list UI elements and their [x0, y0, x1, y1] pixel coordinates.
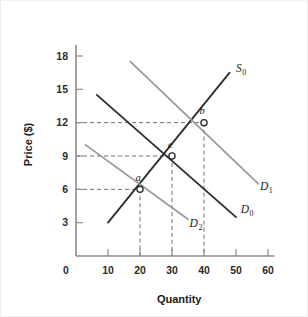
curve-label-d0: D0	[240, 203, 254, 218]
curve-label-d1: D1	[259, 180, 273, 195]
data-point-a	[137, 186, 143, 192]
curve-label-s0: S0	[236, 62, 246, 77]
y-tick-label: 9	[62, 150, 68, 162]
data-point-e	[169, 153, 175, 159]
x-tick-label: 20	[134, 264, 146, 276]
supply-demand-figure: 3691215180102030405060QuantityPrice ($) …	[0, 0, 308, 317]
y-axis-title: Price ($)	[22, 122, 34, 166]
data-point-label-b: b	[200, 105, 205, 116]
curve-d0	[97, 95, 236, 217]
x-axis-title: Quantity	[157, 293, 202, 305]
x-tick-label: 50	[230, 264, 242, 276]
data-point-label-a: a	[136, 172, 141, 183]
curve-label-d2: D2	[189, 217, 203, 232]
x-tick-label: 60	[262, 264, 274, 276]
x-tick-label: 30	[166, 264, 178, 276]
y-tick-label: 15	[56, 83, 68, 95]
y-tick-label: 18	[56, 50, 68, 62]
x-tick-label: 0	[63, 264, 69, 276]
y-tick-label: 6	[62, 183, 68, 195]
y-tick-label: 3	[62, 216, 68, 228]
x-tick-label: 40	[198, 264, 210, 276]
data-point-label-e: e	[168, 139, 173, 150]
y-tick-label: 12	[56, 116, 68, 128]
axes-layer: 3691215180102030405060QuantityPrice ($)	[22, 45, 274, 305]
chart-canvas: 3691215180102030405060QuantityPrice ($) …	[0, 0, 308, 317]
data-point-b	[201, 120, 207, 126]
x-tick-label: 10	[102, 264, 114, 276]
